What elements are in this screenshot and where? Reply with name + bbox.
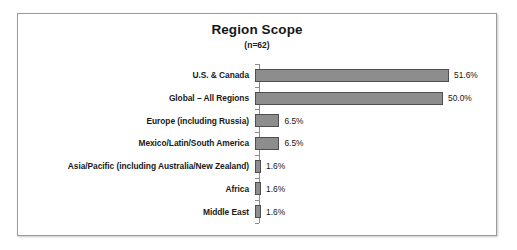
axis-tick [255,200,259,201]
bar [255,137,279,150]
bar-row: U.S. & Canada51.6% [18,64,498,87]
bar-wrap: 1.6% [254,200,498,223]
axis-tick [255,64,259,65]
bar [255,205,261,218]
bar [255,69,449,82]
title-block: Region Scope (n=62) [18,22,496,51]
axis-tick [255,155,259,156]
chart-title: Region Scope [18,22,496,38]
category-label: Mexico/Latin/South America [18,138,254,148]
bar [255,160,261,173]
chart-subtitle: (n=62) [18,39,496,51]
bar-value-label: 1.6% [266,161,285,171]
axis-tick [255,223,259,224]
plot-area: U.S. & Canada51.6%Global – All Regions50… [18,61,498,231]
bar-value-label: 1.6% [266,184,285,194]
bar-row: Africa1.6% [18,178,498,201]
category-label: Middle East [18,207,254,217]
bar-wrap: 51.6% [254,64,498,87]
chart-frame: Region Scope (n=62) U.S. & Canada51.6%Gl… [17,13,497,236]
bar-value-label: 50.0% [448,93,472,103]
axis-tick [255,109,259,110]
bar-wrap: 1.6% [254,155,498,178]
category-label: U.S. & Canada [18,70,254,80]
bar-value-label: 51.6% [454,70,478,80]
bar [255,182,261,195]
axis-tick [255,87,259,88]
axis-tick [255,178,259,179]
bar-wrap: 6.5% [254,109,498,132]
bar-row: Mexico/Latin/South America6.5% [18,132,498,155]
bar-value-label: 1.6% [266,207,285,217]
category-label: Global – All Regions [18,93,254,103]
bar-row: Europe (including Russia)6.5% [18,109,498,132]
bar-row: Global – All Regions50.0% [18,87,498,110]
bar-row: Middle East1.6% [18,200,498,223]
category-label: Europe (including Russia) [18,116,254,126]
axis-tick [255,132,259,133]
bar-wrap: 1.6% [254,178,498,201]
bar [255,114,279,127]
category-label: Asia/Pacific (including Australia/New Ze… [18,161,254,171]
category-label: Africa [18,184,254,194]
bar-value-label: 6.5% [284,116,303,126]
bar [255,92,443,105]
bar-wrap: 6.5% [254,132,498,155]
bar-value-label: 6.5% [284,138,303,148]
bar-wrap: 50.0% [254,87,498,110]
bar-row: Asia/Pacific (including Australia/New Ze… [18,155,498,178]
